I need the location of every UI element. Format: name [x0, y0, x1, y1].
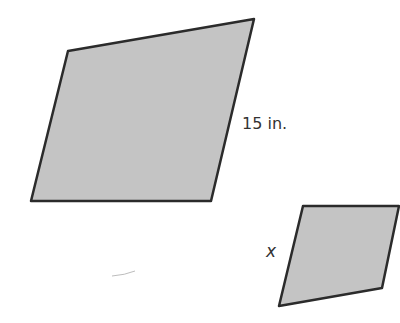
similar-figures-diagram	[0, 0, 400, 323]
scan-mark	[112, 271, 135, 276]
small-shape-side-label: x	[266, 243, 276, 260]
large-shape-side-label: 15 in.	[242, 116, 287, 132]
small-quadrilateral	[279, 206, 399, 306]
large-quadrilateral	[31, 19, 254, 201]
